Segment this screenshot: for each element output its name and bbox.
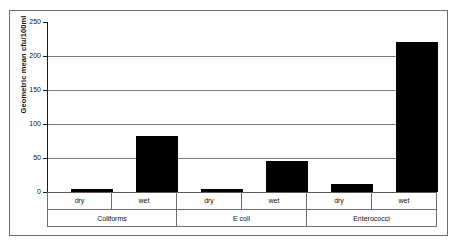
y-tick-250: 250 [8, 18, 41, 26]
bar-enterococci-wet [396, 42, 438, 192]
cat-cell-enterococci-dry: dry [307, 192, 372, 210]
cat-cell-ecoli-wet: wet [242, 192, 307, 210]
chart-figure: Geometric mean cfu/100ml 250 200 150 100… [0, 0, 459, 245]
gridline-150 [48, 90, 437, 91]
y-tick-150: 150 [8, 86, 41, 94]
cat-cell-enterococci-wet: wet [372, 192, 437, 210]
y-tick-50: 50 [8, 154, 41, 162]
bar-enterococci-dry [331, 184, 373, 192]
y-tick-100: 100 [8, 120, 41, 128]
y-tick-200: 200 [8, 52, 41, 60]
gridline-50 [48, 158, 437, 159]
category-row-group: Coliforms E coli Enterococci [47, 210, 437, 227]
y-tick-0: 0 [8, 188, 41, 196]
gridline-100 [48, 124, 437, 125]
cat-group-ecoli: E coli [177, 210, 307, 227]
bar-coliforms-wet [136, 136, 178, 192]
y-tick-label-0: 0 [15, 188, 41, 195]
cat-group-enterococci: Enterococci [307, 210, 437, 227]
category-axis: dry wet dry wet dry wet Coliforms E coli… [47, 192, 437, 227]
bar-ecoli-wet [266, 161, 308, 192]
cat-cell-coliforms-wet: wet [112, 192, 177, 210]
cat-group-coliforms: Coliforms [47, 210, 177, 227]
category-row-condition: dry wet dry wet dry wet [47, 192, 437, 210]
y-tick-label-100: 100 [15, 120, 41, 127]
plot-area [48, 22, 437, 192]
y-tick-label-50: 50 [15, 154, 41, 161]
y-tick-label-150: 150 [15, 86, 41, 93]
gridline-200 [48, 56, 437, 57]
cat-cell-ecoli-dry: dry [177, 192, 242, 210]
y-tick-label-200: 200 [15, 52, 41, 59]
cat-cell-coliforms-dry: dry [47, 192, 112, 210]
y-tick-label-250: 250 [15, 18, 41, 25]
